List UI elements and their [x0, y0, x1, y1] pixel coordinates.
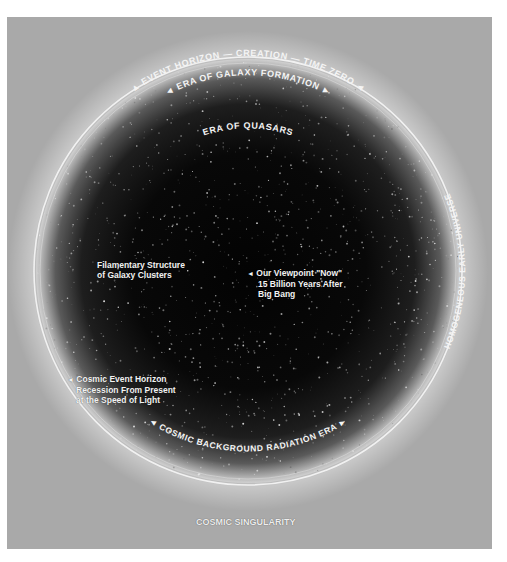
star — [343, 226, 345, 228]
star — [200, 388, 202, 390]
star — [206, 434, 207, 435]
star — [113, 223, 114, 224]
star — [412, 176, 413, 177]
star — [341, 174, 342, 175]
star — [212, 338, 214, 340]
star — [152, 312, 153, 313]
star — [321, 240, 323, 242]
star — [266, 435, 267, 436]
star — [195, 176, 197, 178]
star — [392, 273, 393, 274]
star — [410, 164, 412, 166]
star — [233, 218, 234, 219]
star — [296, 233, 297, 234]
star — [434, 220, 436, 222]
star — [273, 193, 274, 194]
star — [258, 251, 259, 252]
star — [290, 362, 291, 363]
star — [394, 361, 395, 362]
star — [396, 351, 397, 352]
star — [117, 330, 118, 331]
star — [245, 190, 246, 191]
star — [221, 337, 223, 339]
star — [385, 157, 386, 158]
star — [120, 437, 121, 438]
star — [399, 302, 400, 303]
star — [446, 305, 448, 307]
star — [282, 88, 284, 90]
star — [152, 244, 154, 246]
star — [170, 122, 171, 123]
star — [276, 379, 278, 381]
star — [325, 96, 326, 97]
star — [92, 156, 93, 157]
star — [168, 459, 170, 461]
star — [257, 370, 258, 371]
star — [252, 399, 253, 400]
star — [226, 218, 228, 220]
star — [153, 216, 154, 217]
star — [137, 446, 138, 447]
star — [284, 414, 286, 416]
star — [210, 161, 212, 163]
star — [391, 246, 392, 247]
star — [151, 287, 153, 289]
star — [403, 276, 404, 277]
star — [393, 349, 394, 350]
star — [178, 374, 179, 375]
star — [238, 282, 239, 283]
star — [273, 147, 275, 149]
star — [86, 177, 87, 178]
star — [421, 274, 423, 276]
star — [216, 310, 218, 312]
star — [274, 326, 275, 327]
star — [266, 456, 268, 458]
star — [302, 194, 303, 195]
star — [237, 377, 239, 379]
star — [100, 310, 101, 311]
star — [218, 227, 219, 228]
star — [181, 341, 182, 342]
star — [278, 112, 279, 113]
star — [268, 211, 270, 213]
star — [192, 171, 193, 172]
star — [207, 196, 208, 197]
star — [309, 262, 310, 263]
star — [215, 144, 217, 146]
star — [314, 415, 316, 417]
star — [398, 369, 399, 370]
star — [313, 410, 315, 412]
star — [419, 239, 420, 240]
star — [290, 101, 291, 102]
star — [392, 408, 393, 409]
star — [294, 390, 296, 392]
star — [70, 193, 71, 194]
star — [394, 363, 396, 365]
star — [251, 237, 252, 238]
star — [135, 347, 137, 349]
star — [123, 416, 124, 417]
star — [57, 347, 58, 348]
star — [141, 291, 142, 292]
star — [185, 297, 186, 298]
star — [156, 144, 158, 146]
star — [67, 262, 68, 263]
star — [319, 168, 320, 169]
star — [190, 175, 191, 176]
star — [199, 145, 201, 147]
star — [124, 314, 125, 315]
star — [78, 363, 79, 364]
star — [351, 401, 353, 403]
star — [124, 215, 126, 217]
star — [134, 97, 136, 99]
star — [416, 291, 418, 293]
star — [189, 334, 190, 335]
star — [317, 247, 318, 248]
star — [312, 259, 314, 261]
star — [231, 425, 233, 427]
star — [254, 474, 255, 475]
star — [196, 373, 197, 374]
star — [284, 473, 285, 474]
star — [404, 321, 405, 322]
star — [434, 243, 436, 245]
